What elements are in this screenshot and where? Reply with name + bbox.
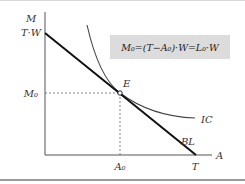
m0-label: M₀ (23, 88, 38, 99)
formula-text: M₀=(T−A₀)·W=L₀·W (120, 42, 220, 53)
equilibrium-point (118, 91, 122, 95)
bl-label: BL (180, 136, 195, 147)
bottom-border (0, 179, 245, 181)
x-intercept-label: T (192, 161, 200, 172)
point-label: E (122, 78, 131, 89)
ic-label: IC (200, 114, 213, 125)
diagram: M₀=(T−A₀)·W=L₀·W M T·W A T E M₀ A₀ IC BL (0, 0, 245, 184)
x-axis-label: A (215, 150, 223, 161)
y-intercept-label: T·W (21, 27, 42, 38)
a0-label: A₀ (113, 161, 125, 172)
y-axis-label: M (25, 13, 37, 24)
